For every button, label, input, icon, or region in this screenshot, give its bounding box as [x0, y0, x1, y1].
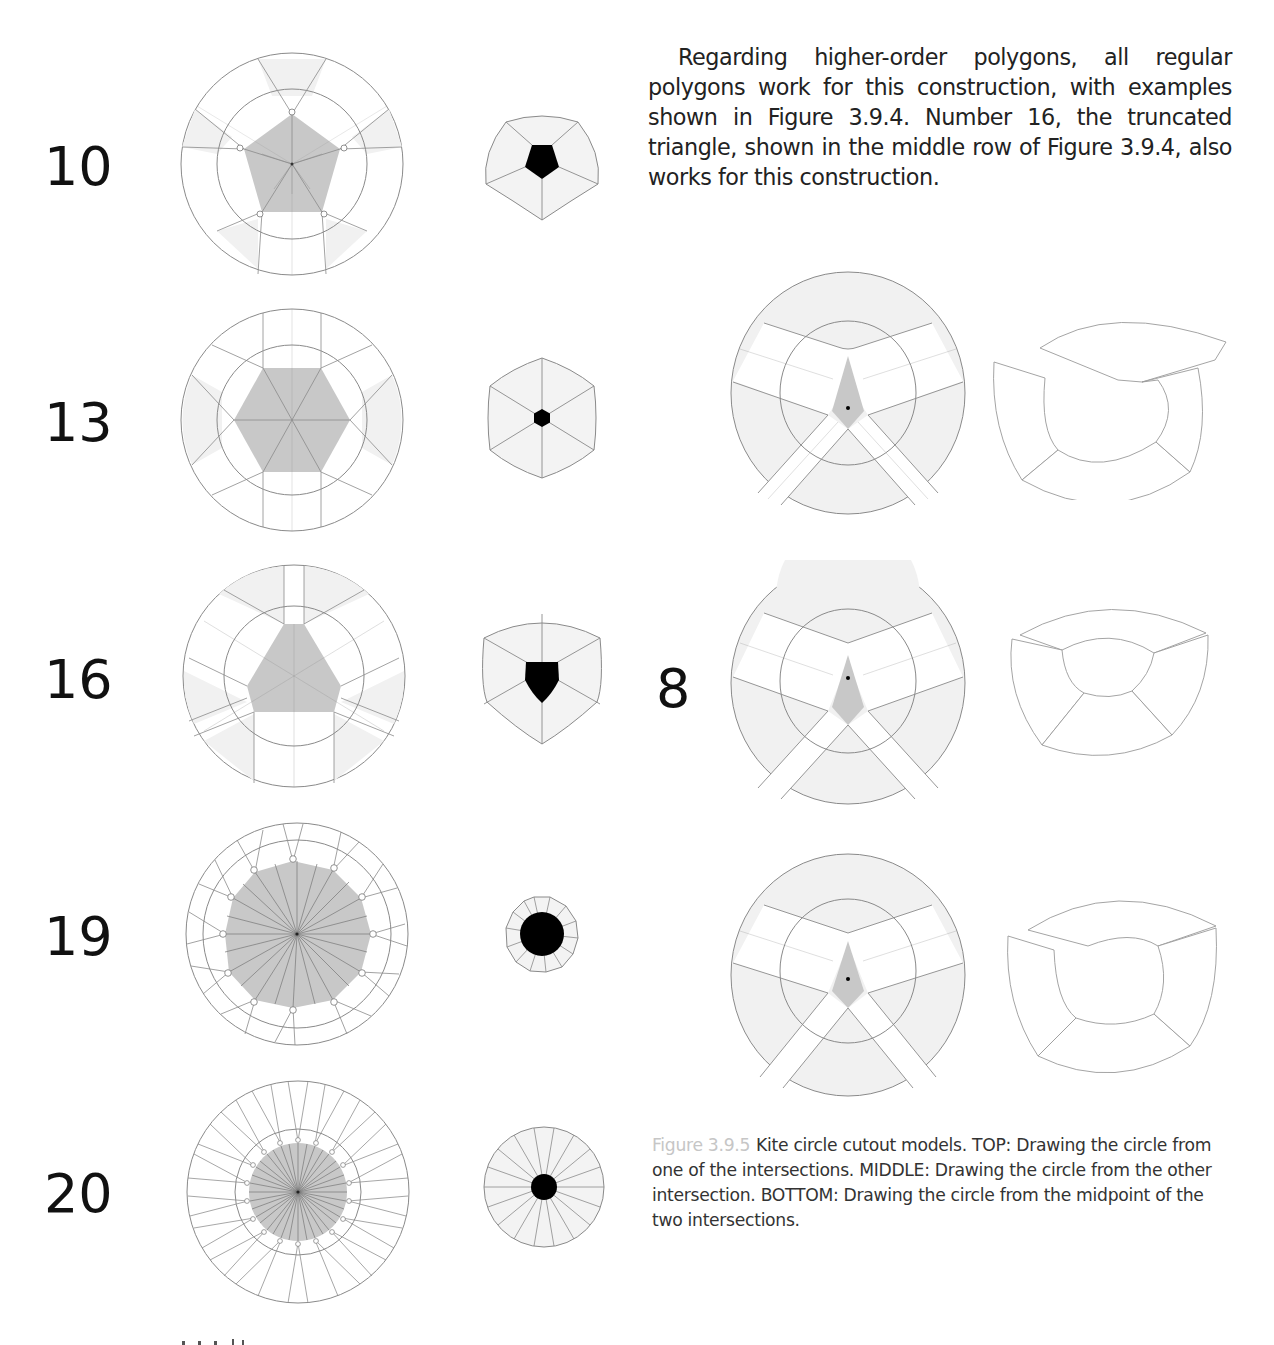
dodecagon-construction-diagram	[182, 818, 412, 1050]
kite-circle-diagram-top	[728, 270, 968, 516]
pentagon-cutout-model	[482, 100, 602, 224]
figure-caption: Figure 3.9.5Kite circle cutout models. T…	[652, 1133, 1232, 1233]
dodecagon-cutout-model	[502, 892, 582, 976]
row-number-10: 10	[44, 140, 113, 194]
truncated-triangle-construction-diagram	[180, 562, 408, 790]
row-number-20: 20	[44, 1167, 113, 1221]
kite-circle-cutout-bottom	[1006, 884, 1226, 1084]
truncated-triangle-cutout-model	[480, 608, 604, 746]
figure-caption-label: Figure 3.9.5	[652, 1135, 750, 1155]
kite-circle-diagram-middle	[728, 560, 968, 806]
pentagon-construction-diagram	[178, 50, 406, 278]
octadecagon-construction-diagram	[184, 1076, 412, 1308]
row-number-8: 8	[656, 662, 690, 716]
row-number-16: 16	[44, 653, 113, 707]
row-number-19: 19	[44, 910, 113, 964]
kite-circle-diagram-bottom	[728, 852, 968, 1098]
kite-circle-cutout-middle	[1010, 595, 1220, 795]
octadecagon-cutout-model	[482, 1124, 606, 1250]
cutoff-text-fragment	[180, 1338, 260, 1345]
hexagon-construction-diagram	[178, 306, 406, 534]
row-number-13: 13	[44, 396, 113, 450]
body-paragraph: Regarding higher-order polygons, all reg…	[648, 42, 1232, 192]
hexagon-cutout-model	[486, 356, 598, 480]
kite-circle-cutout-top	[990, 300, 1230, 500]
